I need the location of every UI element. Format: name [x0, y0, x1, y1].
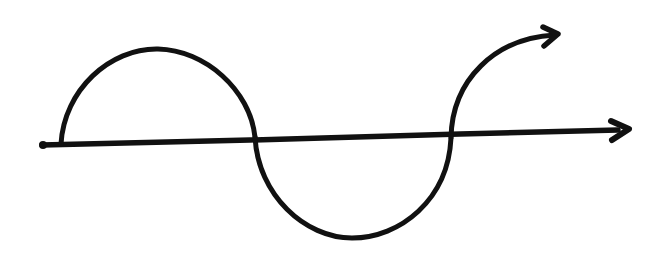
wave-crest	[61, 49, 255, 144]
axis-start-dot	[39, 141, 47, 149]
horizontal-axis	[39, 121, 629, 149]
wave-trough	[255, 137, 451, 238]
axis-line	[42, 130, 618, 145]
wave-tail	[451, 35, 555, 138]
wave-diagram: Hand-drawn sine-like wave crossing a hor…	[0, 0, 664, 262]
